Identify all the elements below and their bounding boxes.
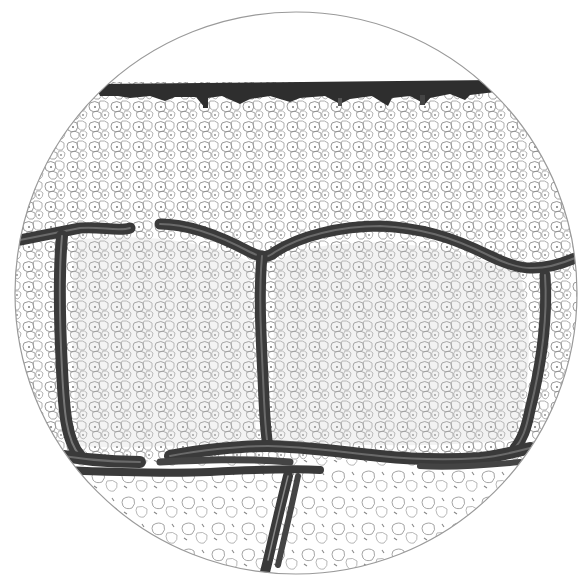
lobules xyxy=(72,237,529,447)
field-content xyxy=(0,0,587,584)
left-lobule xyxy=(72,237,256,447)
right-lobule xyxy=(272,242,529,445)
illustration-stage xyxy=(0,0,587,584)
microscope-field-figure xyxy=(0,0,587,584)
lower-cell-zone xyxy=(0,460,587,584)
